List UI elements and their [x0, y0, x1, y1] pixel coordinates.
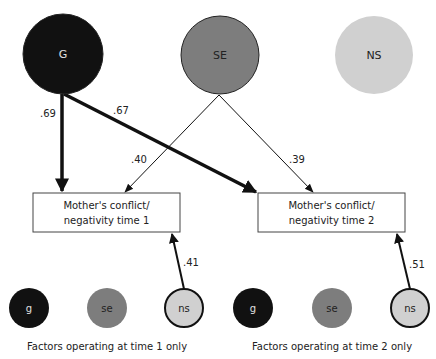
caption-time2: Factors operating at time 2 only	[252, 341, 412, 352]
svg-text:g: g	[250, 303, 256, 314]
coef-SE-time2: .39	[289, 154, 305, 165]
factor-ns-time2: ns	[391, 289, 429, 327]
svg-text:ns: ns	[404, 303, 416, 314]
caption-time1: Factors operating at time 1 only	[27, 341, 187, 352]
factor-G: G	[23, 14, 103, 94]
path-SE-to-time1	[125, 95, 219, 192]
box-mothers-conflict-time2: Mother's conflict/ negativity time 2	[258, 193, 405, 232]
coef-ns2-time2: .51	[409, 259, 425, 270]
factor-ns-time1: ns	[165, 289, 203, 327]
svg-text:SE: SE	[213, 49, 227, 62]
coef-G-time2: .67	[113, 105, 129, 116]
svg-text:ns: ns	[178, 303, 190, 314]
box-mothers-conflict-time1: Mother's conflict/ negativity time 1	[33, 193, 180, 232]
svg-text:se: se	[326, 303, 337, 314]
factor-se-time1: se	[87, 288, 127, 328]
svg-text:negativity time 2: negativity time 2	[289, 215, 375, 226]
path-diagram: .69 .67 .40 .39 .41 .51 G SE NS Mother's…	[0, 0, 436, 359]
svg-text:Mother's conflict/: Mother's conflict/	[63, 200, 150, 211]
svg-text:G: G	[59, 48, 68, 61]
coef-ns1-time1: .41	[183, 257, 199, 268]
svg-text:Mother's conflict/: Mother's conflict/	[288, 200, 375, 211]
coef-SE-time1: .40	[131, 154, 147, 165]
factor-SE: SE	[181, 16, 259, 94]
factor-NS: NS	[335, 16, 413, 94]
svg-text:g: g	[26, 303, 32, 314]
coef-G-time1: .69	[40, 108, 56, 119]
factor-g-time2: g	[233, 288, 273, 328]
factor-se-time2: se	[312, 288, 352, 328]
svg-text:se: se	[101, 303, 112, 314]
path-G-to-time2	[64, 94, 256, 192]
factor-g-time1: g	[9, 288, 49, 328]
svg-text:NS: NS	[366, 49, 381, 62]
path-SE-to-time2	[219, 95, 313, 192]
svg-text:negativity time 1: negativity time 1	[64, 215, 150, 226]
